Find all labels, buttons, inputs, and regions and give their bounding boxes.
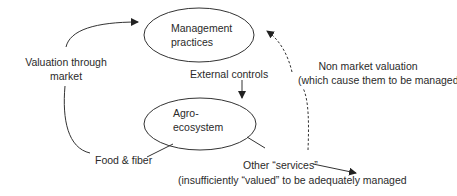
valuation-line1: Valuation through	[18, 55, 114, 69]
market-valuation-arrow	[66, 22, 138, 47]
non-market-valuation-arrow	[267, 31, 308, 150]
management-line1: Management	[171, 21, 232, 35]
management-practices-label: Management practices	[171, 21, 232, 49]
food-fiber-label: Food & fiber	[95, 154, 152, 167]
valuation-through-market-label: Valuation through market	[18, 55, 114, 83]
management-line2: practices	[171, 35, 232, 49]
other-services-arrow	[313, 164, 356, 173]
non-market-line2: (which cause them to be managed)	[298, 73, 438, 87]
agro-line2: ecosystem	[173, 120, 223, 134]
other-services-connector	[247, 137, 265, 148]
agro-line1: Agro-	[173, 106, 223, 120]
non-market-line1: Non market valuation	[298, 59, 438, 73]
market-valuation-lower-curve	[64, 86, 90, 153]
agro-ecosystem-label: Agro- ecosystem	[173, 106, 223, 134]
insufficiently-valued-label: (insufficiently “valued” to be adequatel…	[178, 174, 407, 187]
external-controls-label: External controls	[190, 68, 268, 81]
other-services-label: Other “services”	[243, 159, 318, 172]
valuation-line2: market	[18, 69, 114, 83]
non-market-valuation-label: Non market valuation (which cause them t…	[298, 59, 438, 87]
